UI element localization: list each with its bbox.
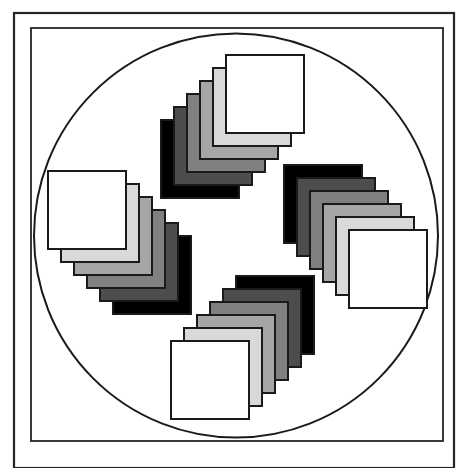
stack-bottom-card-white — [171, 341, 249, 419]
figure-root: Pinwheel arrangement of four graduated s… — [0, 0, 465, 468]
figure-canvas — [0, 0, 465, 468]
stack-left-card-white — [48, 171, 126, 249]
stack-right-card-white — [349, 230, 427, 308]
stack-top-card-white — [226, 55, 304, 133]
